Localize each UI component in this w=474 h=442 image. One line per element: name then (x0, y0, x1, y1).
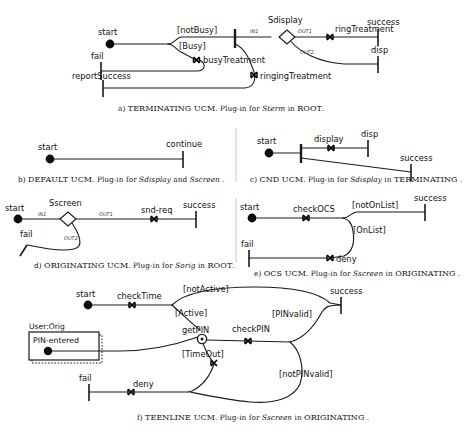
condition-f-timeout: [TimeOut] (182, 349, 224, 359)
condition-f-pinvalid: [PINvalid] (272, 309, 312, 319)
caption-e-rest: . Plug-in for (306, 269, 353, 278)
caption-c-italic: Sdisplay (350, 175, 382, 184)
caption-c-letter: c) (250, 175, 257, 184)
caption-f-end: . (364, 413, 369, 422)
waiting-place-dot-f (201, 338, 204, 341)
caption-e-italic: Sscreen (353, 269, 383, 278)
caption-e-letter: e) (254, 269, 261, 278)
label-c-disp: disp (361, 129, 378, 139)
caption-a-rest: . Plug-in for (215, 104, 262, 113)
panel-a-terminating: start [notBusy] [Busy] busyTreatment fai… (72, 15, 399, 97)
caption-f-rest: . Plug-in for (215, 413, 262, 422)
caption-c-tail: in (382, 175, 394, 184)
label-a-disp: disp (371, 45, 388, 55)
start-point-f-start[interactable] (84, 301, 93, 310)
label-f-success: success (330, 286, 362, 296)
caption-a-parent: ROOT (297, 104, 322, 113)
caption-d-italic: Sorig (175, 261, 195, 270)
start-point-e-start[interactable] (248, 214, 257, 223)
caption-a-end: . (322, 104, 324, 113)
caption-d-name: ORIGINATING UCM (44, 261, 128, 270)
panel-c-cnd: start display disp success (257, 129, 432, 181)
condition-e-notonlist: [notOnList] (352, 200, 398, 210)
label-b-continue: continue (166, 139, 202, 149)
caption-a-italic: Sterm (262, 104, 285, 113)
caption-c: c) CND UCM. Plug-in for Sdisplay in TERM… (250, 175, 462, 184)
caption-c-parent: TERMINATING (394, 175, 458, 184)
label-f-deny: deny (133, 379, 154, 389)
condition-f-notactive: [notActive] (183, 284, 229, 294)
start-point-b-start[interactable] (46, 155, 55, 164)
stub-a-sdisplay[interactable] (279, 30, 295, 44)
label-e-deny: deny (336, 254, 357, 264)
label-f-fail: fail (79, 373, 92, 383)
label-a-success: success (367, 17, 399, 27)
label-d-success: success (183, 200, 215, 210)
path-f-timeout-to-deny (188, 364, 214, 392)
caption-a-letter: a) (118, 104, 125, 113)
panel-e-ocs: start checkOCS [notOnList] [OnList] succ… (240, 193, 446, 267)
stub-port-d-in1: IN1 (38, 211, 46, 217)
caption-a-tail: in (285, 104, 297, 113)
label-c-success: success (400, 153, 432, 163)
condition-f-active: [Active] (175, 308, 207, 318)
path-e-notonlist (343, 212, 425, 218)
caption-d-letter: d) (34, 261, 42, 270)
caption-c-name: CND UCM (260, 175, 304, 184)
label-d-start: start (5, 203, 25, 213)
end-point-d-fail[interactable] (20, 245, 27, 256)
caption-e-name: OCS UCM (264, 269, 306, 278)
stub-port-a-out2: OUT2 (300, 49, 314, 55)
ucm-figure: start [notBusy] [Busy] busyTreatment fai… (0, 0, 474, 442)
start-point-c-start[interactable] (265, 149, 274, 158)
caption-c-end: . (458, 175, 463, 184)
caption-a: a) TERMINATING UCM. Plug-in for Sterm in… (118, 104, 324, 113)
caption-e-tail: in (383, 269, 395, 278)
panel-f-teenline: start checkTime [notActive] [Active] suc… (29, 284, 362, 402)
caption-f-tail: in (292, 413, 304, 422)
label-c-start: start (257, 136, 277, 146)
caption-c-rest: . Plug-in for (303, 175, 350, 184)
path-a-busy-to-fail (101, 60, 204, 71)
stub-port-a-out1: OUT1 (298, 28, 312, 34)
stub-d-sscreen[interactable] (60, 212, 76, 226)
caption-e: e) OCS UCM. Plug-in for Sscreen in ORIGI… (254, 269, 460, 278)
start-point-a-start[interactable] (106, 40, 115, 49)
label-a-busytreatment: busyTreatment (203, 55, 266, 65)
caption-f-letter: f) (137, 413, 143, 422)
label-d-sscreen: Sscreen (49, 198, 82, 208)
caption-f-name: TEENLINE UCM (145, 413, 215, 422)
caption-d: d) ORIGINATING UCM. Plug-in for Sorig in… (34, 261, 235, 270)
caption-b-italic2: Sscreen (190, 175, 220, 184)
stub-port-d-out1: OUT1 (99, 211, 113, 217)
label-e-success: success (414, 193, 446, 203)
panel-d-originating: start IN1 Sscreen OUT1 snd-req success O… (5, 198, 215, 256)
label-b-start: start (38, 142, 58, 152)
label-a-reportsuccess: reportSuccess (72, 71, 131, 81)
caption-a-name: TERMINATING UCM (128, 104, 215, 113)
condition-a-busy: [Busy] (179, 41, 206, 51)
caption-b-rest: . Plug-in for (92, 175, 139, 184)
label-f-checktime: checkTime (117, 291, 162, 301)
caption-d-tail: in (196, 261, 208, 270)
label-f-start: start (76, 289, 96, 299)
path-e-onlist (330, 218, 354, 258)
label-f-userorig: User:Orig (29, 322, 65, 331)
caption-b: b) DEFAULT UCM. Plug-in for Sdisplay and… (18, 175, 225, 184)
start-point-f-pinentered[interactable] (44, 347, 52, 355)
caption-b-tail: and (171, 175, 190, 184)
condition-a-notbusy: [notBusy] (177, 25, 217, 35)
label-f-pinentered: PIN-entered (33, 336, 79, 345)
caption-e-parent: ORIGINATING (395, 269, 455, 278)
start-point-d-start[interactable] (14, 215, 23, 224)
stub-port-a-in1: IN1 (250, 28, 258, 34)
stub-port-d-out2: OUT2 (64, 235, 78, 241)
label-e-start: start (240, 202, 260, 212)
label-f-checkpin: checkPIN (232, 324, 270, 334)
label-a-ringingtreatment: ringingTreatment (260, 71, 332, 81)
caption-f-parent: ORIGINATING (304, 413, 364, 422)
label-a-sdisplay: Sdisplay (268, 15, 303, 25)
label-e-checkocs: checkOCS (293, 204, 335, 214)
ucm-canvas: start [notBusy] [Busy] busyTreatment fai… (0, 0, 474, 442)
caption-f: f) TEENLINE UCM. Plug-in for Sscreen in … (137, 413, 369, 422)
